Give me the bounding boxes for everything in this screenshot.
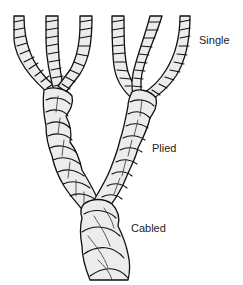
label-plied: Plied [152, 143, 176, 154]
right-plied-yarn [94, 90, 157, 206]
right-singles [112, 16, 190, 104]
left-plied-yarn [43, 88, 98, 212]
cabled-yarn [81, 200, 130, 281]
label-single: Single [199, 35, 230, 46]
label-cabled: Cabled [131, 223, 166, 234]
left-singles [14, 16, 92, 98]
